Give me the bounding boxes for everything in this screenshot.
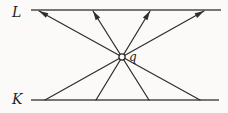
- top-line-label: L: [11, 4, 21, 20]
- point-q-label: q: [129, 50, 137, 64]
- point-q-marker: [119, 54, 125, 60]
- field-lines-diagram: L K q: [0, 0, 228, 113]
- diagram-canvas: L K q: [0, 0, 228, 113]
- bottom-line-label: K: [11, 91, 24, 107]
